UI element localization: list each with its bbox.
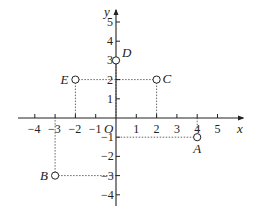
coordinate-plane-svg: −4−3−2−112345 −4−3−2−112345 x y O ABCDE <box>0 0 258 219</box>
x-tick-label: 5 <box>215 122 221 136</box>
x-axis-label: x <box>236 121 243 136</box>
point-d-marker <box>112 57 119 64</box>
y-tick-label: −4 <box>101 188 114 202</box>
y-axis-label: y <box>102 4 110 19</box>
point-a-label: A <box>192 141 201 156</box>
x-tick-label: −2 <box>68 122 81 136</box>
point-b-marker <box>52 172 59 179</box>
origin-label: O <box>104 121 114 136</box>
point-e-label: E <box>59 72 68 87</box>
x-tick-label: −3 <box>48 122 61 136</box>
coordinate-plane-diagram: −4−3−2−112345 −4−3−2−112345 x y O ABCDE <box>0 0 258 219</box>
x-axis-ticks: −4−3−2−112345 <box>28 114 221 136</box>
point-e-marker <box>72 76 79 83</box>
point-b-label: B <box>40 168 48 183</box>
point-c-label: C <box>163 71 172 86</box>
y-tick-label: −3 <box>101 169 114 183</box>
y-tick-label: 2 <box>107 73 113 87</box>
x-tick-label: 2 <box>154 122 160 136</box>
point-c-marker <box>153 76 160 83</box>
x-tick-label: −4 <box>28 122 41 136</box>
x-tick-label: 1 <box>133 122 139 136</box>
y-tick-label: 4 <box>107 34 113 48</box>
y-tick-label: −2 <box>101 149 114 163</box>
x-tick-label: 3 <box>174 122 180 136</box>
point-a-marker <box>194 134 201 141</box>
y-tick-label: 1 <box>107 92 113 106</box>
x-tick-label: −1 <box>89 122 102 136</box>
y-axis-ticks: −4−3−2−112345 <box>101 15 120 202</box>
point-d-label: D <box>121 45 132 60</box>
